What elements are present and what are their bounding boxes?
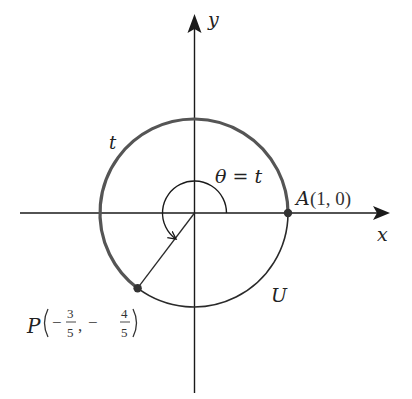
- y-axis-label: y: [207, 8, 219, 30]
- svg-text:−: −: [88, 313, 98, 332]
- svg-text:P: P: [26, 314, 41, 338]
- point-p-dot: [133, 284, 141, 292]
- svg-text:A: A: [294, 187, 310, 209]
- point-p-label: P − 3 5 , − 4 5: [26, 306, 137, 340]
- y-axis: [188, 14, 202, 393]
- svg-text:5: 5: [67, 325, 74, 340]
- point-a-dot: [284, 209, 292, 217]
- svg-text:3: 3: [67, 306, 74, 321]
- x-axis-label: x: [377, 223, 388, 245]
- svg-text:4: 4: [121, 306, 128, 321]
- svg-text:(1, 0): (1, 0): [310, 188, 351, 210]
- svg-text:−: −: [52, 313, 62, 332]
- arc-t-label: t: [109, 132, 117, 153]
- angle-theta-label: θ = t: [215, 165, 262, 187]
- unit-circle-figure: y x t θ = t A (1, 0) U P − 3 5 , − 4 5: [0, 0, 412, 399]
- svg-text:,: ,: [78, 316, 82, 335]
- point-a-label: A (1, 0): [294, 187, 351, 210]
- svg-text:5: 5: [121, 325, 128, 340]
- circle-u-label: U: [271, 284, 288, 306]
- radius-op: [138, 213, 195, 288]
- unit-circle-thin-arc: [138, 213, 288, 307]
